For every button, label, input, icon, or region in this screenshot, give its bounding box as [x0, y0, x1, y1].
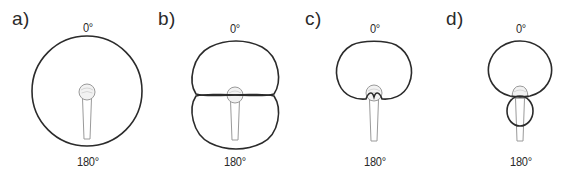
panel-label-c: c): [305, 8, 322, 30]
panel-label-a: a): [12, 8, 30, 30]
angle-label-0-a: 0°: [83, 20, 93, 35]
microphone-icon: [512, 86, 528, 141]
polar-pattern-figure: a) b) c) d) 0° 0° 0° 0° 180° 180° 180° 1…: [0, 0, 563, 179]
angle-label-180-c: 180°: [364, 154, 386, 169]
angle-label-180-d: 180°: [510, 154, 532, 169]
panel-c-drawing: [337, 41, 412, 141]
panel-b-drawing: [192, 41, 278, 149]
panel-label-d: d): [446, 8, 464, 30]
angle-label-0-d: 0°: [516, 21, 526, 36]
angle-label-180-b: 180°: [224, 154, 246, 169]
panel-a-drawing: [32, 36, 142, 146]
microphone-icon: [79, 84, 95, 139]
angle-label-0-c: 0°: [370, 21, 380, 36]
angle-label-180-a: 180°: [77, 154, 99, 169]
angle-label-0-b: 0°: [230, 21, 240, 36]
panel-d-drawing: [488, 41, 551, 141]
panel-label-b: b): [158, 8, 176, 30]
